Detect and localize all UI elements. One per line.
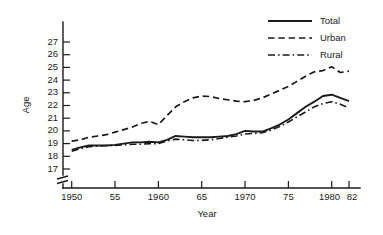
line-chart-svg: 27 26 25 24 23 22 21 20 19 18 17 [0, 0, 383, 235]
legend-label-total: Total [320, 15, 340, 26]
y-tick-label: 23 [47, 86, 58, 97]
x-tick-label: 1950 [61, 191, 82, 202]
y-tick-group: 27 26 25 24 23 22 21 20 19 18 17 [47, 36, 70, 174]
x-tick-label: 1970 [234, 191, 255, 202]
legend-label-urban: Urban [320, 32, 346, 43]
series-line-total [72, 95, 349, 150]
y-tick-label: 24 [47, 74, 58, 85]
y-axis-break-icon [57, 176, 68, 184]
y-tick-label: 26 [47, 48, 58, 59]
y-axis-title: Age [20, 97, 31, 114]
x-tick-label: 65 [196, 191, 207, 202]
x-tick-label: 75 [283, 191, 294, 202]
y-tick-label: 17 [47, 163, 58, 174]
y-tick-label: 22 [47, 99, 58, 110]
y-tick-label: 19 [47, 137, 58, 148]
y-tick-label: 20 [47, 124, 58, 135]
x-axis-title: Year [197, 208, 216, 219]
x-tick-label: 1980 [319, 191, 340, 202]
x-tick-label: 1960 [148, 191, 169, 202]
series-line-rural [72, 102, 349, 152]
y-tick-label: 18 [47, 150, 58, 161]
legend: Total Urban Rural [268, 15, 346, 60]
x-tick-label: 82 [347, 191, 358, 202]
legend-label-rural: Rural [320, 49, 343, 60]
y-tick-label: 21 [47, 112, 58, 123]
series-line-urban [72, 67, 349, 141]
y-tick-label: 27 [47, 36, 58, 47]
chart-figure: 27 26 25 24 23 22 21 20 19 18 17 [0, 0, 383, 235]
y-tick-label: 25 [47, 61, 58, 72]
x-tick-label: 55 [110, 191, 121, 202]
x-tick-group: 1950 55 1960 65 1970 75 1980 82 [61, 181, 357, 202]
